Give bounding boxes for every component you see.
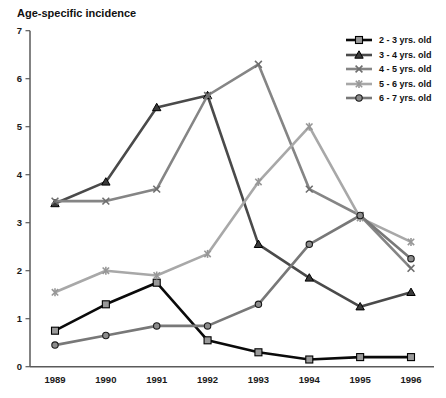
legend-sample-line xyxy=(345,78,373,90)
triangle-marker-icon xyxy=(254,240,262,247)
legend-item: 6 - 7 yrs. old xyxy=(345,91,432,106)
y-tick-label: 6 xyxy=(17,73,22,84)
y-tick-label: 2 xyxy=(17,265,22,276)
x-marker-icon xyxy=(408,265,415,272)
circle-marker-icon xyxy=(204,323,210,329)
legend: 2 - 3 yrs. old3 - 4 yrs. old4 - 5 yrs. o… xyxy=(345,33,432,106)
x-tick-label: 1989 xyxy=(44,374,65,385)
x-tick-label: 1993 xyxy=(248,374,269,385)
square-marker-icon xyxy=(407,354,414,361)
circle-marker-icon xyxy=(408,256,414,262)
square-marker-icon xyxy=(356,37,363,44)
legend-sample-line xyxy=(345,34,373,46)
circle-marker-icon xyxy=(154,323,160,329)
circle-marker-icon xyxy=(255,301,261,307)
circle-marker-icon xyxy=(357,212,363,218)
legend-item: 3 - 4 yrs. old xyxy=(345,48,432,63)
x-tick-label: 1994 xyxy=(299,374,321,385)
legend-label: 2 - 3 yrs. old xyxy=(379,35,432,45)
legend-label: 5 - 6 yrs. old xyxy=(379,79,432,89)
series-line xyxy=(55,283,411,360)
x-tick-label: 1990 xyxy=(95,374,116,385)
legend-sample-line xyxy=(345,49,373,61)
circle-marker-icon xyxy=(103,332,109,338)
y-tick-label: 4 xyxy=(17,169,23,180)
x-tick-label: 1991 xyxy=(146,374,168,385)
y-tick-label: 0 xyxy=(17,361,22,372)
age-specific-incidence-chart: Age-specific incidence 01234567198919901… xyxy=(0,0,446,398)
legend-sample-line xyxy=(345,92,373,104)
square-marker-icon xyxy=(52,327,59,334)
legend-label: 4 - 5 yrs. old xyxy=(379,64,432,74)
x-tick-label: 1996 xyxy=(400,374,421,385)
circle-marker-icon xyxy=(306,241,312,247)
series-5-6-yrs-old xyxy=(52,123,414,297)
series-6-7-yrs-old xyxy=(52,212,414,348)
square-marker-icon xyxy=(255,349,262,356)
circle-marker-icon xyxy=(356,95,362,101)
y-tick-label: 7 xyxy=(17,25,22,36)
legend-sample-line xyxy=(345,63,373,75)
star-marker-icon xyxy=(306,123,312,131)
square-marker-icon xyxy=(204,337,211,344)
x-tick-label: 1995 xyxy=(350,374,372,385)
y-tick-label: 3 xyxy=(17,217,22,228)
y-tick-label: 5 xyxy=(17,121,23,132)
legend-item: 2 - 3 yrs. old xyxy=(345,33,432,48)
series-2-3-yrs-old xyxy=(52,279,415,363)
square-marker-icon xyxy=(153,279,160,286)
legend-label: 6 - 7 yrs. old xyxy=(379,93,432,103)
square-marker-icon xyxy=(102,301,109,308)
y-tick-label: 1 xyxy=(17,313,23,324)
square-marker-icon xyxy=(357,354,364,361)
legend-label: 3 - 4 yrs. old xyxy=(379,50,432,60)
legend-item: 4 - 5 yrs. old xyxy=(345,62,432,77)
series-line xyxy=(55,216,411,346)
square-marker-icon xyxy=(306,356,313,363)
star-marker-icon xyxy=(255,178,261,186)
legend-item: 5 - 6 yrs. old xyxy=(345,77,432,92)
x-tick-label: 1992 xyxy=(197,374,218,385)
circle-marker-icon xyxy=(52,342,58,348)
